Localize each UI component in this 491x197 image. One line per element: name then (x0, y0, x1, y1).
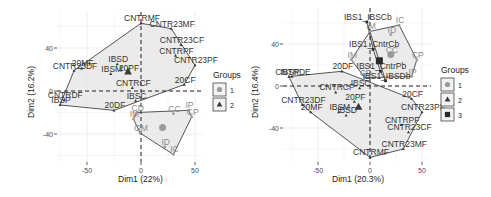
legend-symbol-icon (445, 82, 450, 87)
legend: Groups 123 (441, 65, 469, 121)
x-tick-label: -50 (82, 167, 92, 174)
point-label: IC (170, 144, 179, 154)
point-label: ID (162, 137, 171, 147)
x-tick-label: -50 (313, 167, 323, 174)
legend-title: Groups (441, 65, 469, 75)
point-label: IM (130, 109, 139, 119)
legend-title: Groups (213, 70, 241, 80)
point-label: CNTR23MF (150, 19, 195, 29)
point-label: CP (412, 50, 424, 60)
legend-label: 2 (230, 102, 234, 109)
y-tick-label: -40 (269, 125, 279, 132)
point-label: CNTR23PF (401, 102, 445, 112)
point-label: 20MF (301, 102, 323, 112)
point-label: CNTRDE (275, 67, 311, 77)
point-label: 20PF (345, 92, 365, 102)
y-tick-label: 40 (45, 45, 53, 52)
legend-label: 1 (458, 82, 462, 89)
group-centroid (376, 57, 383, 64)
point-label: CNTR23CF (160, 35, 204, 45)
point-label: 20CF (402, 89, 423, 99)
point-label: IBSD (337, 105, 357, 115)
x-axis-title: Dim1 (20.3%) (332, 174, 384, 184)
legend-label: 3 (458, 112, 462, 119)
y-tick-label: 40 (271, 41, 279, 48)
point-label: IM (348, 50, 357, 60)
point-label: IBS1_IBSDb (363, 71, 411, 81)
point-label: CP (187, 107, 199, 117)
point-label: IC (396, 15, 405, 25)
point-label: IBSM (101, 64, 122, 74)
point-label: CNTR23PF (174, 55, 218, 65)
point-label: IM (366, 21, 375, 31)
legend-label: 1 (230, 87, 234, 94)
y-tick-label: -40 (43, 131, 53, 138)
point-label: CNTRPF (159, 46, 193, 56)
point-label: 20CF (175, 75, 196, 85)
point-label: CC (168, 104, 180, 114)
group-centroid (387, 51, 394, 58)
point-label: CNTRCF (116, 78, 151, 88)
point-label: IBSC (127, 91, 147, 101)
point-label: CNTR23CF (387, 122, 431, 132)
plot-left: CNTRMFCNTR23MFCNTR23CFCNTRPFCNTR23PFIBSD… (26, 12, 241, 184)
x-tick-label: 0 (139, 167, 143, 174)
x-axis-title: Dim1 (22%) (118, 174, 163, 184)
point-label: CNTRMF (353, 147, 389, 157)
legend: Groups 12 (213, 70, 241, 111)
x-tick-label: 0 (368, 167, 372, 174)
point-label: CNTR23DF (53, 61, 97, 71)
x-tick-label: 50 (191, 167, 199, 174)
y-axis-title: Dim2 (16.2%) (26, 66, 36, 118)
legend-symbol-icon (217, 87, 222, 92)
legend-symbol-icon (445, 112, 450, 117)
plot-right: IBS1_IBSCbICIMIDIBS1_CntrCbCCCPIMIBS1_Cn… (250, 8, 469, 184)
point-label: 20DF (333, 61, 354, 71)
point-label: ID (388, 25, 397, 35)
point-label: GM (134, 123, 148, 133)
x-tick-label: 50 (418, 167, 426, 174)
figure-canvas: CNTRMFCNTR23MFCNTR23CFCNTRPFCNTR23PFIBSD… (0, 0, 491, 197)
y-axis-title: Dim2 (16.4%) (250, 66, 260, 118)
legend-label: 2 (458, 97, 462, 104)
group-centroid (159, 124, 166, 131)
y-tick-label: 0 (275, 83, 279, 90)
point-label: 20DF (105, 100, 126, 110)
point-label: IBSP (51, 95, 71, 105)
y-tick-label: 0 (49, 88, 53, 95)
